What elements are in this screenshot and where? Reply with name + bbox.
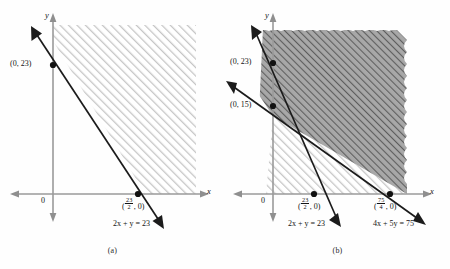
panel-caption-b: (b) xyxy=(225,246,450,255)
point-label-x-intercept-23-2-b: (232, 0) xyxy=(298,197,320,211)
panel-b-graph xyxy=(225,0,450,240)
x-intercept-23-2-fraction-b: 232 xyxy=(301,197,309,210)
axis-label-y-a: y xyxy=(45,10,49,20)
equation-label-2x-plus-y-23-b: 2x + y = 23 xyxy=(288,219,325,228)
origin-label-a: 0 xyxy=(41,196,45,205)
panel-a-graph xyxy=(0,0,225,240)
axis-label-y-b: y xyxy=(265,10,269,20)
equation-label-4x-plus-5y-75-b: 4x + 5y = 75 xyxy=(373,219,414,228)
panel-a: y x (0, 23) 0 (232, 0) 2x + y = 23 (a) xyxy=(0,0,225,269)
x-intercept-23-2-paren-close-b: , 0) xyxy=(310,202,321,211)
x-intercept-fraction-a: 232 xyxy=(125,197,133,210)
equation-label-a: 2x + y = 23 xyxy=(113,219,150,228)
point-dot-y-intercept-a xyxy=(50,62,56,68)
point-dot-y-intercept-15-b xyxy=(270,103,276,109)
point-dot-y-intercept-23-b xyxy=(270,60,276,66)
panel-caption-a: (a) xyxy=(0,246,225,255)
x-intercept-75-4-fraction-b: 754 xyxy=(377,197,385,210)
x-intercept-75-4-paren-close-b: , 0) xyxy=(386,202,397,211)
figure-canvas: y x (0, 23) 0 (232, 0) 2x + y = 23 (a) xyxy=(0,0,450,269)
shaded-region-a xyxy=(44,25,197,194)
point-label-y-intercept-a: (0, 23) xyxy=(10,59,31,68)
point-label-y-intercept-15-b: (0, 15) xyxy=(230,100,251,109)
axis-label-x-a: x xyxy=(207,186,211,196)
point-label-y-intercept-23-b: (0, 23) xyxy=(230,57,251,66)
x-intercept-paren-close-a: , 0) xyxy=(134,202,145,211)
point-label-x-intercept-75-4-b: (754, 0) xyxy=(374,197,396,211)
axis-label-x-b: x xyxy=(430,186,434,196)
panel-b: y x (0, 23) (0, 15) 0 (232, 0) (754, 0) … xyxy=(225,0,450,269)
point-label-x-intercept-a: (232, 0) xyxy=(122,197,144,211)
origin-label-b: 0 xyxy=(261,196,265,205)
